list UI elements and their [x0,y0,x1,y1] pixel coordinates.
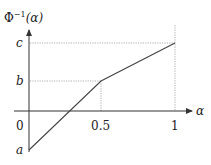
y-tick-a: a [16,143,23,157]
x-tick-one: 1 [171,119,179,133]
origin-label: 0 [16,119,24,133]
x-tick-half: 0.5 [91,119,110,133]
chart: Φ−1(α) c b a 0 0.5 1 α [0,0,211,165]
x-axis-title: α [196,104,204,118]
y-axis-title: Φ−1(α) [4,10,43,25]
y-tick-c: c [16,36,23,50]
y-tick-b: b [16,74,24,88]
inverse-cdf-line [29,43,175,150]
